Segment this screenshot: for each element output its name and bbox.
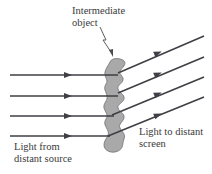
intermediate-object-shape <box>104 59 125 153</box>
leader-arrowhead-icon <box>109 49 113 57</box>
arrow-right-icon <box>64 93 72 99</box>
intermediate-object-label: Intermediate object <box>72 5 125 29</box>
arrow-right-icon <box>64 113 72 119</box>
incoming-light-label-line1: Light from <box>14 141 72 153</box>
incoming-rays <box>10 75 118 136</box>
outgoing-ray-2 <box>118 57 204 93</box>
outgoing-light-label: Light to distant screen <box>139 126 203 150</box>
arrow-right-icon <box>64 133 72 139</box>
leader-arrow-icon <box>100 27 111 52</box>
outgoing-light-label-line1: Light to distant <box>139 126 203 138</box>
outgoing-light-label-line2: screen <box>139 138 203 150</box>
intermediate-object-label-line1: Intermediate <box>72 5 125 17</box>
arrow-right-icon <box>64 72 72 78</box>
outgoing-ray-1 <box>118 36 204 73</box>
incoming-arrow-icons <box>64 72 72 139</box>
outgoing-arrow-icons <box>153 49 163 120</box>
incoming-light-label: Light from distant source <box>14 141 72 165</box>
incoming-light-label-line2: distant source <box>14 153 72 165</box>
outgoing-ray-3 <box>112 77 204 115</box>
intermediate-object-label-line2: object <box>72 17 125 29</box>
